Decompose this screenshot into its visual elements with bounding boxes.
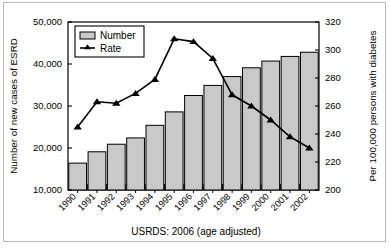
y2-tick-label-280: 280 <box>325 72 341 83</box>
bar-1991 <box>88 152 106 190</box>
y2-tick-label-220: 220 <box>325 156 341 167</box>
bar-2001 <box>281 56 299 190</box>
x-tick-label-1994: 1994 <box>134 191 156 213</box>
x-tick-label-2000: 2000 <box>250 191 272 213</box>
x-tick-label-1991: 1991 <box>76 191 98 213</box>
x-tick-label-1998: 1998 <box>211 191 233 213</box>
x-tick-label-1992: 1992 <box>95 191 117 213</box>
bar-1995 <box>165 112 183 190</box>
dual-axis-bar-line-chart: 10,00020,00030,00040,00050,000 200220240… <box>0 0 389 249</box>
x-tick-label-1996: 1996 <box>172 191 194 213</box>
y2-tick-label-300: 300 <box>325 44 341 55</box>
chart-legend: Number Rate <box>75 26 144 57</box>
x-tick-label-2001: 2001 <box>269 191 291 213</box>
y2-tick-label-240: 240 <box>325 128 341 139</box>
y-tick-label-50,000: 50,000 <box>33 16 62 27</box>
legend-label-number: Number <box>100 30 136 41</box>
y2-tick-label-260: 260 <box>325 100 341 111</box>
y-tick-label-40,000: 40,000 <box>33 58 62 69</box>
bar-1992 <box>107 144 125 190</box>
chart-figure: 10,00020,00030,00040,00050,000 200220240… <box>0 0 389 249</box>
y-axis-title: Number of new cases of ESRD <box>8 38 19 174</box>
x-tick-label-1999: 1999 <box>230 191 252 213</box>
y-tick-label-10,000: 10,000 <box>33 184 62 195</box>
bar-2002 <box>300 52 318 190</box>
legend-label-rate: Rate <box>100 43 122 54</box>
bar-1993 <box>127 138 145 190</box>
bar-1996 <box>185 96 203 191</box>
legend-swatch-number <box>80 32 95 39</box>
y-tick-label-20,000: 20,000 <box>33 142 62 153</box>
bar-1990 <box>69 163 87 190</box>
left-axis: 10,00020,00030,00040,00050,000 <box>33 16 72 195</box>
y-tick-label-30,000: 30,000 <box>33 100 62 111</box>
chart-caption: USRDS: 2006 (age adjusted) <box>131 226 261 237</box>
bar-1994 <box>146 125 164 190</box>
y2-tick-label-320: 320 <box>325 16 341 27</box>
x-tick-label-1993: 1993 <box>114 191 136 213</box>
x-tick-label-1997: 1997 <box>192 191 214 213</box>
x-tick-label-1995: 1995 <box>153 191 175 213</box>
y2-tick-label-200: 200 <box>325 184 341 195</box>
bar-1997 <box>204 85 222 190</box>
x-tick-label-2002: 2002 <box>288 191 310 213</box>
bar-1999 <box>243 68 261 190</box>
y2-axis-title: Per 100,000 persons with diabetes <box>367 30 378 181</box>
